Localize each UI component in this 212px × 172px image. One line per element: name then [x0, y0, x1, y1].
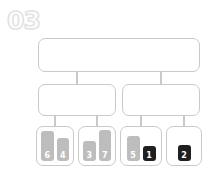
- mid-node-1[interactable]: [38, 84, 116, 116]
- leaf-node-4[interactable]: 2: [166, 126, 202, 166]
- connector-root-to-mid-2: [160, 72, 162, 84]
- connector-mid1-to-leaf-1: [54, 116, 56, 126]
- chip-1-1[interactable]: 6: [41, 131, 54, 161]
- chip-3-2-value: 1: [146, 152, 152, 160]
- leaf-node-3[interactable]: 5 1: [120, 126, 162, 166]
- root-node[interactable]: [38, 38, 200, 72]
- chip-2-1-value: 3: [86, 152, 92, 160]
- chip-3-2[interactable]: 1: [143, 146, 156, 161]
- chip-3-1-value: 5: [130, 152, 136, 160]
- chip-1-2[interactable]: 4: [57, 138, 70, 161]
- chip-2-2-value: 7: [102, 152, 108, 160]
- leaf-node-1[interactable]: 6 4: [36, 126, 74, 166]
- chip-2-2[interactable]: 7: [99, 130, 112, 161]
- chip-4-1[interactable]: 2: [178, 145, 191, 161]
- chip-3-1[interactable]: 5: [127, 136, 140, 161]
- chip-2-1[interactable]: 3: [83, 141, 96, 161]
- connector-mid1-to-leaf-2: [96, 116, 98, 126]
- diagram-canvas: 03 6 4 3 7 5 1: [0, 0, 212, 172]
- connector-mid2-to-leaf-3: [140, 116, 142, 126]
- leaf-node-2[interactable]: 3 7: [78, 126, 116, 166]
- mid-node-2[interactable]: [122, 84, 200, 116]
- chip-1-1-value: 6: [44, 152, 50, 160]
- step-number-label: 03: [7, 8, 40, 33]
- chip-1-2-value: 4: [60, 152, 66, 160]
- connector-mid2-to-leaf-4: [183, 116, 185, 126]
- connector-root-to-mid-1: [76, 72, 78, 84]
- chip-4-1-value: 2: [181, 152, 187, 160]
